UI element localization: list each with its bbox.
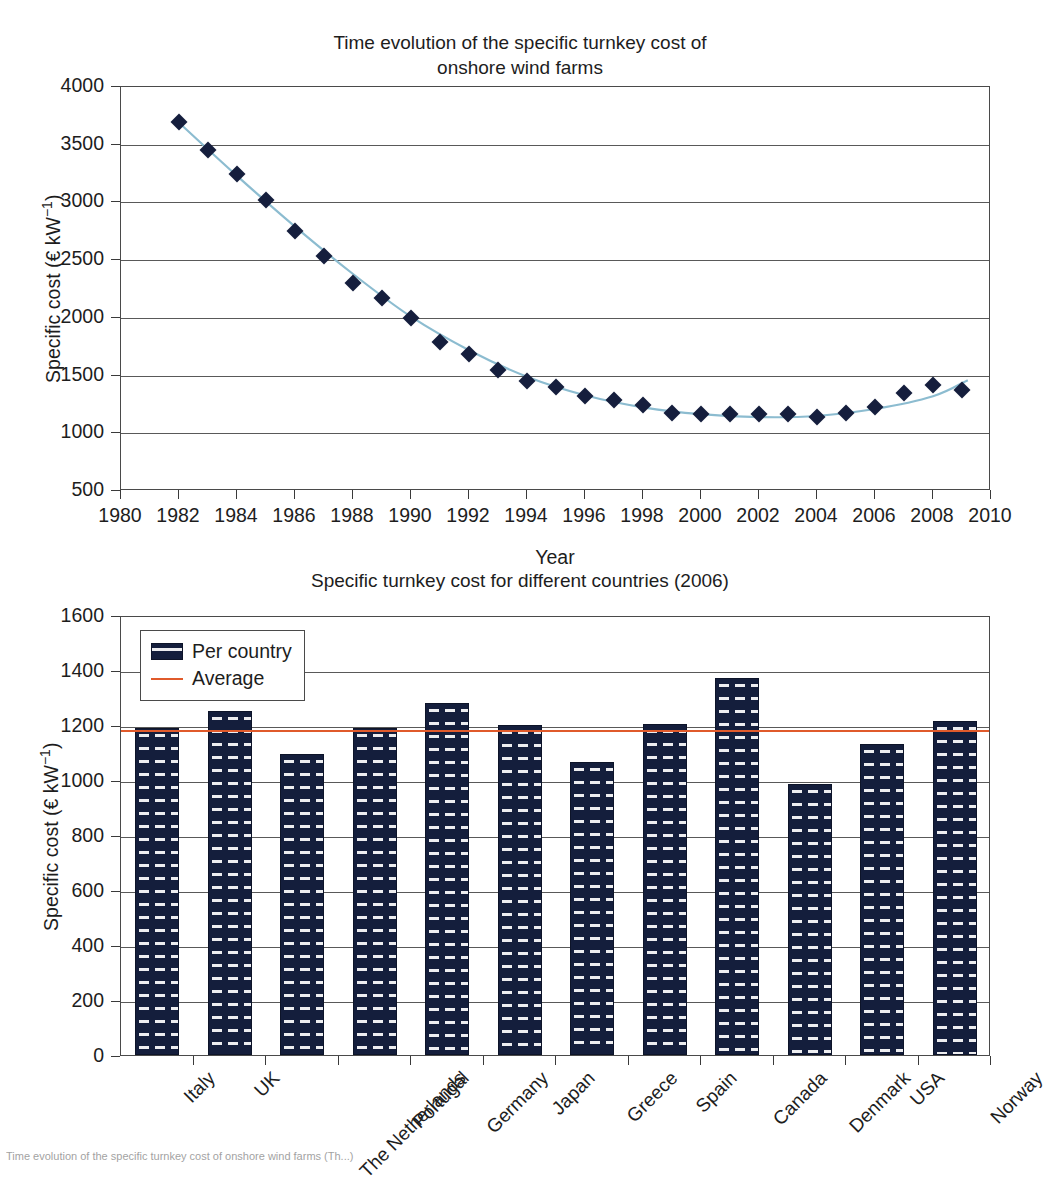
y-tick-label: 800 bbox=[24, 826, 104, 846]
legend-line-swatch-icon bbox=[151, 678, 183, 680]
bar-pattern bbox=[716, 679, 758, 1054]
bar-pattern bbox=[136, 729, 178, 1054]
y-tick-label: 3000 bbox=[24, 192, 104, 212]
x-tick-label: 1986 bbox=[272, 506, 315, 526]
bar bbox=[788, 784, 832, 1055]
y-tick-mark bbox=[111, 1001, 120, 1002]
y-tick-label: 400 bbox=[24, 936, 104, 956]
bar-pattern bbox=[861, 745, 903, 1054]
x-tick-label: 2004 bbox=[794, 506, 837, 526]
legend-item-average: Average bbox=[151, 665, 292, 692]
bar-pattern bbox=[571, 763, 613, 1054]
x-tick-mark bbox=[483, 1056, 484, 1065]
x-tick-mark bbox=[816, 490, 817, 499]
x-tick-mark bbox=[410, 490, 411, 499]
y-tick-mark bbox=[111, 201, 120, 202]
y-tick-label: 4000 bbox=[24, 76, 104, 96]
category-label: Denmark bbox=[845, 1068, 913, 1136]
category-label: Portugal bbox=[408, 1068, 471, 1131]
x-tick-mark bbox=[410, 1056, 411, 1065]
x-tick-mark bbox=[990, 490, 991, 499]
x-tick-mark bbox=[584, 490, 585, 499]
bar bbox=[933, 721, 977, 1055]
x-tick-mark bbox=[773, 1056, 774, 1065]
legend-bottom: Per country Average bbox=[140, 630, 305, 701]
category-label: Italy bbox=[180, 1068, 218, 1106]
x-tick-label: 1984 bbox=[214, 506, 257, 526]
x-tick-label: 2000 bbox=[678, 506, 721, 526]
x-tick-label: 2010 bbox=[968, 506, 1011, 526]
y-tick-mark bbox=[111, 781, 120, 782]
bar-pattern bbox=[354, 729, 396, 1054]
x-tick-mark bbox=[642, 490, 643, 499]
x-tick-mark bbox=[294, 490, 295, 499]
x-tick-label: 1980 bbox=[98, 506, 141, 526]
x-tick-mark bbox=[526, 490, 527, 499]
x-tick-label: 1982 bbox=[156, 506, 199, 526]
x-tick-mark bbox=[990, 1056, 991, 1065]
chart-time-evolution: Time evolution of the specific turnkey c… bbox=[0, 0, 1033, 560]
x-tick-label: 1992 bbox=[446, 506, 489, 526]
bar bbox=[715, 678, 759, 1055]
bar-pattern bbox=[934, 722, 976, 1054]
x-tick-label: 1998 bbox=[620, 506, 663, 526]
bar bbox=[425, 703, 469, 1055]
bar bbox=[353, 728, 397, 1055]
bar bbox=[208, 711, 252, 1055]
bar bbox=[280, 754, 324, 1055]
x-tick-mark bbox=[628, 1056, 629, 1065]
y-tick-mark bbox=[111, 616, 120, 617]
x-tick-label: 2006 bbox=[852, 506, 895, 526]
legend-label-average: Average bbox=[192, 669, 264, 689]
bar-pattern bbox=[209, 712, 251, 1054]
y-tick-label: 2000 bbox=[24, 307, 104, 327]
x-tick-mark bbox=[352, 490, 353, 499]
y-tick-mark bbox=[111, 1056, 120, 1057]
x-tick-mark bbox=[265, 1056, 266, 1065]
y-tick-mark bbox=[111, 891, 120, 892]
x-tick-label: 1990 bbox=[388, 506, 431, 526]
y-tick-label: 2500 bbox=[24, 249, 104, 269]
x-tick-label: 2002 bbox=[736, 506, 779, 526]
x-tick-label: 1988 bbox=[330, 506, 373, 526]
average-line bbox=[121, 730, 989, 732]
y-tick-mark bbox=[111, 490, 120, 491]
x-tick-mark bbox=[236, 490, 237, 499]
bar-pattern bbox=[281, 755, 323, 1054]
bar-pattern bbox=[426, 704, 468, 1054]
y-tick-label: 1600 bbox=[24, 606, 104, 626]
x-tick-mark bbox=[178, 490, 179, 499]
category-label: USA bbox=[907, 1068, 948, 1109]
legend-label-per-country: Per country bbox=[192, 642, 292, 662]
y-tick-mark bbox=[111, 375, 120, 376]
y-tick-label: 1000 bbox=[24, 771, 104, 791]
y-tick-mark bbox=[111, 259, 120, 260]
category-label: Germany bbox=[483, 1068, 552, 1137]
y-tick-label: 1200 bbox=[24, 716, 104, 736]
y-tick-label: 3500 bbox=[24, 134, 104, 154]
bar-pattern bbox=[499, 726, 541, 1054]
category-label: Canada bbox=[770, 1068, 831, 1129]
x-tick-mark bbox=[555, 1056, 556, 1065]
y-tick-label: 600 bbox=[24, 881, 104, 901]
bar-pattern bbox=[789, 785, 831, 1054]
x-tick-label: 2008 bbox=[910, 506, 953, 526]
trend-curve bbox=[121, 87, 991, 491]
x-tick-mark bbox=[758, 490, 759, 499]
x-tick-mark bbox=[700, 1056, 701, 1065]
y-tick-mark bbox=[111, 86, 120, 87]
x-tick-mark bbox=[338, 1056, 339, 1065]
bar-pattern bbox=[644, 725, 686, 1054]
category-label: Spain bbox=[692, 1068, 740, 1116]
y-tick-label: 1500 bbox=[24, 365, 104, 385]
category-label: UK bbox=[250, 1068, 282, 1100]
x-tick-mark bbox=[120, 490, 121, 499]
x-tick-mark bbox=[468, 490, 469, 499]
bar bbox=[498, 725, 542, 1055]
y-tick-label: 1400 bbox=[24, 661, 104, 681]
figure-caption: Time evolution of the specific turnkey c… bbox=[6, 1150, 353, 1162]
legend-bar-swatch-icon bbox=[151, 643, 183, 660]
legend-item-per-country: Per country bbox=[151, 638, 292, 665]
bar bbox=[570, 762, 614, 1055]
